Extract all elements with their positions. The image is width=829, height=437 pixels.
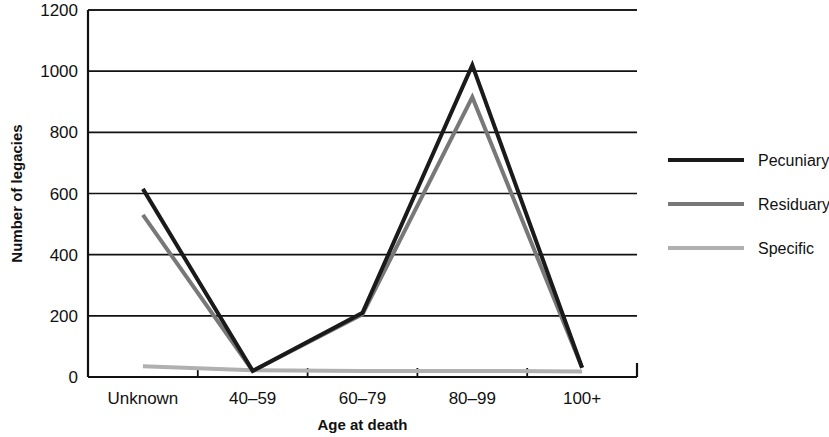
series-line-specific	[143, 366, 582, 371]
y-axis-title: Number of legacies	[8, 124, 25, 262]
legend-label-pecuniary: Pecuniary	[758, 152, 829, 169]
series-line-residuary	[143, 97, 582, 371]
y-tick-label: 400	[50, 246, 78, 265]
y-tick-label: 1000	[40, 62, 78, 81]
legend-label-residuary: Residuary	[758, 196, 829, 213]
y-tick-label: 200	[50, 307, 78, 326]
x-tick-label: 40–59	[229, 389, 276, 408]
legend: PecuniaryResiduarySpecific	[668, 152, 829, 257]
series-group	[143, 65, 582, 371]
line-chart: 020040060080010001200Unknown40–5960–7980…	[0, 0, 829, 437]
y-tick-label: 800	[50, 123, 78, 142]
legend-item: Residuary	[668, 196, 829, 213]
y-tick-label: 600	[50, 185, 78, 204]
legend-item: Pecuniary	[668, 152, 829, 169]
x-axis-title: Age at death	[317, 416, 407, 433]
x-tick-label: 100+	[563, 389, 601, 408]
x-tick-label: 60–79	[339, 389, 386, 408]
y-tick-label: 0	[69, 368, 78, 387]
y-tick-label: 1200	[40, 1, 78, 20]
x-tick-labels-group: Unknown40–5960–7980–99100+	[107, 389, 601, 408]
gridlines-group	[88, 10, 637, 316]
x-tick-label: 80–99	[449, 389, 496, 408]
y-tick-labels-group: 020040060080010001200	[40, 1, 78, 387]
chart-canvas: 020040060080010001200Unknown40–5960–7980…	[0, 0, 829, 437]
legend-item: Specific	[668, 240, 814, 257]
legend-label-specific: Specific	[758, 240, 814, 257]
series-line-pecuniary	[143, 65, 582, 371]
x-tick-label: Unknown	[107, 389, 178, 408]
